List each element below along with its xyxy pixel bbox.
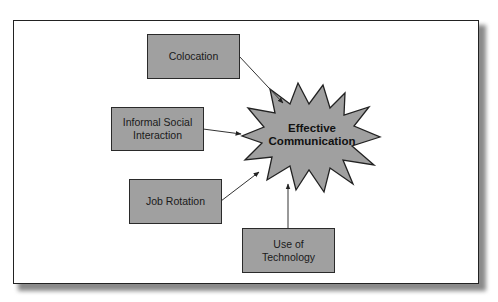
factor-label: Interaction (123, 129, 192, 142)
edge-job-rotation (221, 172, 259, 201)
center-node-label: Effective Communication (262, 122, 362, 148)
factor-label: Informal Social (123, 116, 192, 129)
edge-informal-social-interaction (203, 129, 241, 134)
factor-box-use-of-technology: Use of Technology (242, 228, 335, 273)
factor-label: Job Rotation (146, 195, 205, 208)
factor-box-informal-social-interaction: Informal Social Interaction (111, 107, 204, 151)
edge-colocation (239, 56, 283, 103)
center-label-line2: Communication (262, 135, 362, 148)
factor-box-colocation: Colocation (147, 34, 240, 79)
factor-label: Technology (262, 251, 315, 264)
factor-label: Colocation (169, 50, 219, 63)
center-label-line1: Effective (262, 122, 362, 135)
factor-label: Use of (262, 238, 315, 251)
factor-box-job-rotation: Job Rotation (129, 179, 222, 224)
